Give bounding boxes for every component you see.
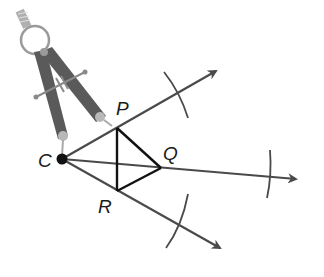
compass-pivot [40,48,48,56]
segment-pq [117,128,161,168]
arc-lower [166,194,188,248]
arc-right [267,150,271,198]
point-c [57,154,68,165]
angle-bisector-diagram: C P Q R [0,0,324,277]
label-c: C [38,150,52,171]
label-p: P [116,98,129,119]
construction-arcs [164,72,271,248]
ray-cq [62,159,296,179]
construction-segments [117,128,161,191]
label-r: R [98,196,112,217]
compass-pencil-knob [95,112,105,122]
segment-rq [117,168,161,191]
rays [62,71,296,248]
compass-grip [16,9,32,29]
label-q: Q [163,143,178,164]
compass-needle-knob [58,131,68,141]
ray-cp [62,71,216,159]
compass-pencil-tip [104,120,112,126]
ray-cr [62,159,220,248]
compass-icon [16,9,112,156]
